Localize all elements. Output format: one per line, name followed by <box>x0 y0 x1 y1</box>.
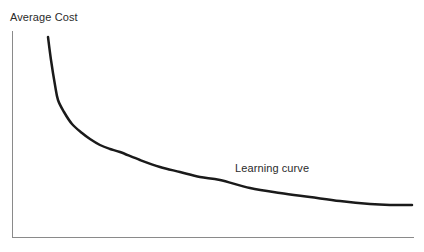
y-axis-title: Average Cost <box>10 11 78 23</box>
curve-annotation-label: Learning curve <box>235 162 309 174</box>
plot-area <box>0 0 424 252</box>
learning-curve-figure: Average Cost Learning curve <box>0 0 424 252</box>
learning-curve-line <box>48 37 412 205</box>
